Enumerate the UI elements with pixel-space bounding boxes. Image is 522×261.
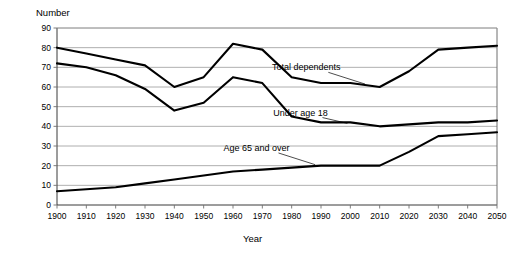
y-tick-label-60: 60 [42, 82, 52, 92]
x-tick-label-1970: 1970 [253, 211, 272, 221]
x-tick-label-2040: 2040 [458, 211, 477, 221]
x-tick-label-2030: 2030 [429, 211, 448, 221]
y-tick-label-70: 70 [42, 62, 52, 72]
x-axis-title: Year [243, 233, 262, 244]
x-tick-label-1960: 1960 [224, 211, 243, 221]
x-tick-label-1990: 1990 [312, 211, 331, 221]
x-tick-label-2050: 2050 [488, 211, 507, 221]
x-tick-label-1930: 1930 [136, 211, 155, 221]
annotation-under-age-18: Under age 18 [273, 108, 328, 118]
x-tick-label-1900: 1900 [48, 211, 67, 221]
y-tick-label-90: 90 [42, 23, 52, 33]
chart-background [0, 0, 522, 261]
y-axis-title: Number [36, 7, 70, 18]
x-tick-label-1910: 1910 [77, 211, 96, 221]
y-tick-label-20: 20 [42, 161, 52, 171]
x-tick-label-1950: 1950 [194, 211, 213, 221]
y-tick-label-50: 50 [42, 102, 52, 112]
y-tick-label-30: 30 [42, 141, 52, 151]
dependency-ratio-line-chart: 0102030405060708090 19001910192019301940… [0, 0, 522, 261]
x-tick-label-1920: 1920 [106, 211, 125, 221]
x-tick-label-1980: 1980 [282, 211, 301, 221]
y-tick-label-10: 10 [42, 180, 52, 190]
x-tick-label-2020: 2020 [400, 211, 419, 221]
y-tick-label-0: 0 [46, 200, 51, 210]
chart-container: 0102030405060708090 19001910192019301940… [0, 0, 522, 261]
y-tick-label-40: 40 [42, 121, 52, 131]
y-tick-label-80: 80 [42, 43, 52, 53]
x-tick-label-2010: 2010 [370, 211, 389, 221]
annotation-age-65-and-over: Age 65 and over [223, 143, 289, 153]
x-tick-label-1940: 1940 [165, 211, 184, 221]
annotation-total-dependents: Total dependents [272, 62, 341, 72]
x-tick-label-2000: 2000 [341, 211, 360, 221]
